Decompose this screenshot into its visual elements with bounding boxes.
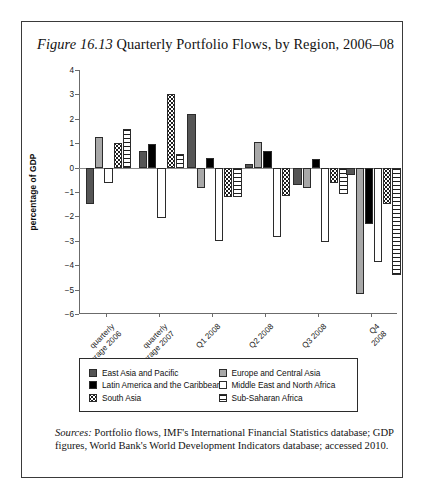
bar-east-asia-and-pacific: [346, 168, 354, 175]
bar-europe-and-central-asia: [197, 168, 205, 189]
x-tick: [212, 313, 213, 317]
bar-sub-saharan-africa: [123, 129, 131, 168]
bar-south-asia: [167, 94, 175, 167]
figure-title: Figure 16.13 Quarterly Portfolio Flows, …: [37, 36, 392, 53]
x-tick: [371, 313, 372, 317]
bar-sub-saharan-africa: [176, 154, 184, 167]
legend-item[interactable]: East Asia and Pacific: [89, 368, 219, 378]
chart-legend: East Asia and PacificEurope and Central …: [79, 358, 358, 412]
x-axis-line: [79, 313, 397, 314]
y-tick-label: 4: [48, 66, 74, 75]
legend-label: Europe and Central Asia: [232, 368, 321, 378]
source-note: Sources: Portfolio flows, IMF's Internat…: [55, 426, 405, 453]
bar-middle-east-and-north-africa: [374, 168, 382, 262]
bar-latin-america-and-the-caribbean: [312, 159, 320, 168]
legend-label: Middle East and North Africa: [232, 380, 336, 390]
y-tick: [75, 168, 79, 169]
y-tick-label: −2: [48, 212, 74, 221]
bar-south-asia: [224, 168, 232, 197]
legend-item[interactable]: Middle East and North Africa: [219, 380, 349, 390]
legend-swatch-icon: [219, 369, 227, 377]
x-axis-label: Q4 2008: [359, 322, 388, 351]
bar-europe-and-central-asia: [356, 168, 364, 295]
y-tick-label: 3: [48, 90, 74, 99]
legend-item[interactable]: Sub-Saharan Africa: [219, 393, 349, 403]
bar-middle-east-and-north-africa: [157, 168, 165, 218]
legend-swatch-icon: [89, 369, 97, 377]
legend-row: East Asia and PacificEurope and Central …: [89, 368, 348, 378]
bar-europe-and-central-asia: [254, 142, 262, 168]
legend-swatch-icon: [89, 394, 97, 402]
bar-latin-america-and-the-caribbean: [263, 151, 271, 168]
y-tick: [75, 192, 79, 193]
y-tick-label: −4: [48, 261, 74, 270]
bar-east-asia-and-pacific: [293, 168, 301, 185]
figure-container: Figure 16.13 Quarterly Portfolio Flows, …: [21, 21, 403, 478]
bar-middle-east-and-north-africa: [321, 168, 329, 242]
y-tick-label: −6: [48, 310, 74, 319]
legend-label: Sub-Saharan Africa: [232, 393, 303, 403]
bar-europe-and-central-asia: [303, 168, 311, 189]
x-tick: [159, 313, 160, 317]
bar-east-asia-and-pacific: [245, 164, 253, 168]
bar-middle-east-and-north-africa: [215, 168, 223, 241]
bar-south-asia: [330, 168, 338, 184]
y-tick-label: −5: [48, 285, 74, 294]
bar-east-asia-and-pacific: [139, 151, 147, 168]
x-tick: [318, 313, 319, 317]
legend-label: East Asia and Pacific: [102, 368, 178, 378]
bar-middle-east-and-north-africa: [273, 168, 281, 238]
bar-latin-america-and-the-caribbean: [365, 168, 373, 224]
legend-label: South Asia: [102, 393, 141, 403]
y-tick: [75, 70, 79, 71]
bar-south-asia: [383, 168, 391, 205]
legend-item[interactable]: Europe and Central Asia: [219, 368, 349, 378]
y-tick: [75, 94, 79, 95]
y-tick-label: −1: [48, 188, 74, 197]
legend-item[interactable]: South Asia: [89, 393, 219, 403]
y-tick: [75, 314, 79, 315]
bar-sub-saharan-africa: [233, 168, 241, 197]
bar-sub-saharan-africa: [392, 168, 400, 275]
x-tick: [265, 313, 266, 317]
y-tick: [75, 265, 79, 266]
figure-number: Figure 16.13: [37, 36, 113, 52]
bar-latin-america-and-the-caribbean: [206, 158, 214, 168]
y-tick-label: −3: [48, 236, 74, 245]
y-tick-label: 1: [48, 139, 74, 148]
bar-east-asia-and-pacific: [86, 168, 94, 205]
x-axis-label: Q3 2008: [300, 322, 328, 350]
x-tick: [106, 313, 107, 317]
bar-south-asia: [282, 168, 290, 196]
legend-row: South AsiaSub-Saharan Africa: [89, 393, 348, 403]
source-label: Sources:: [55, 427, 92, 438]
legend-label: Latin America and the Caribbean: [102, 380, 221, 390]
y-tick: [75, 119, 79, 120]
legend-swatch-icon: [89, 381, 97, 389]
y-tick: [75, 143, 79, 144]
legend-row: Latin America and the CaribbeanMiddle Ea…: [89, 380, 348, 390]
legend-item[interactable]: Latin America and the Caribbean: [89, 380, 219, 390]
legend-swatch-icon: [219, 394, 227, 402]
bar-south-asia: [114, 143, 122, 167]
y-tick: [75, 241, 79, 242]
x-axis-label: Q1 2008: [194, 322, 222, 350]
y-tick-label: 2: [48, 114, 74, 123]
figure-title-text: Quarterly Portfolio Flows, by Region, 20…: [117, 36, 395, 52]
y-tick-label: 0: [48, 163, 74, 172]
source-text: Portfolio flows, IMF's International Fin…: [55, 427, 394, 451]
chart-plot-area: percentage of GDP 43210−1−2−3−4−5−6 quar…: [79, 70, 397, 314]
bar-east-asia-and-pacific: [187, 114, 195, 168]
y-tick: [75, 290, 79, 291]
bar-middle-east-and-north-africa: [104, 168, 112, 184]
bar-latin-america-and-the-caribbean: [148, 144, 156, 167]
y-axis-title: percentage of GDP: [28, 153, 38, 230]
y-tick: [75, 216, 79, 217]
bar-europe-and-central-asia: [95, 137, 103, 168]
legend-swatch-icon: [219, 381, 227, 389]
y-axis-line: [79, 70, 80, 314]
x-axis-label: Q2 2008: [247, 322, 275, 350]
